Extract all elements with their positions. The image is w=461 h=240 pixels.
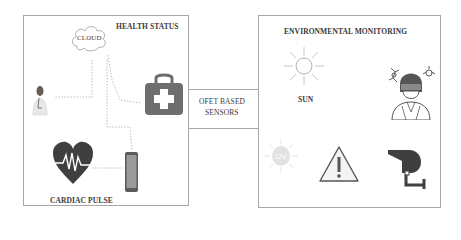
doctor-icon: [30, 84, 50, 116]
masked-person-icon: [388, 62, 436, 120]
medical-kit-icon: [143, 72, 185, 116]
environmental-monitoring-title: ENVIRONMENTAL MONITORING: [284, 27, 407, 36]
warning-icon: [318, 145, 360, 183]
cardiac-pulse-label: CARDIAC PULSE: [50, 196, 113, 205]
cloud-label: CLOUD: [77, 34, 102, 42]
health-status-title: HEALTH STATUS: [116, 22, 179, 31]
sun-label: SUN: [298, 95, 313, 104]
smartphone-icon: [124, 151, 140, 193]
sun-icon: [283, 46, 325, 86]
heart-pulse-icon: [52, 141, 94, 185]
uv-icon: UV: [263, 138, 299, 174]
svg-text:UV: UV: [275, 152, 287, 161]
cctv-camera-icon: [387, 149, 431, 189]
